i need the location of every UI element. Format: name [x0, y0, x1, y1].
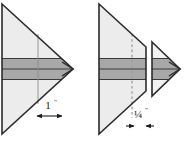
right-dimension-unit: "	[145, 106, 148, 114]
right-dimension-group: ¼ "	[126, 106, 154, 126]
left-panel-group: 1 "	[0, 4, 76, 134]
right-main-band-group	[96, 58, 150, 80]
left-dimension-value: 1	[45, 99, 51, 111]
left-dimension-group: 1 "	[37, 98, 62, 116]
right-panel-group: ¼ "	[96, 4, 182, 134]
right-tip-band-group	[150, 58, 182, 80]
diagram-canvas: 1 "	[0, 0, 187, 145]
diagram-illustration: 1 "	[0, 0, 187, 145]
left-dimension-unit: "	[54, 98, 57, 106]
right-dimension-value: ¼	[134, 108, 142, 120]
